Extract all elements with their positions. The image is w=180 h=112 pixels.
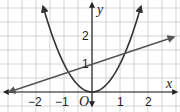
y-axis-label: y [95, 2, 104, 17]
coordinate-graph: x y O −2 −1 1 2 1 2 [0, 0, 180, 112]
x-tick-label-neg1: −1 [55, 95, 69, 109]
x-tick-label-neg2: −2 [28, 95, 42, 109]
x-tick-label-2: 2 [145, 95, 152, 109]
origin-label: O [79, 94, 89, 109]
y-tick-label-1: 1 [82, 57, 89, 71]
x-axis-label: x [165, 76, 173, 91]
y-tick-label-2: 2 [82, 29, 89, 43]
grid-lines [0, 0, 180, 112]
x-tick-label-1: 1 [117, 95, 124, 109]
